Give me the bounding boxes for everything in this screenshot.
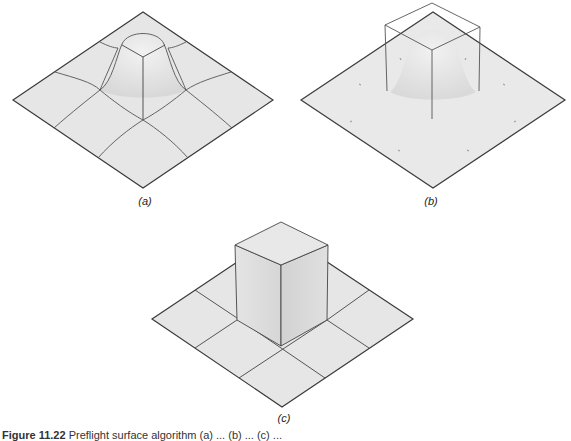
panel-c [152, 222, 413, 407]
panel-label-a: (a) [138, 195, 151, 207]
panel-b [301, 3, 565, 188]
panel-label-b: (b) [424, 195, 437, 207]
solid-box [235, 222, 328, 346]
figure-caption: Figure 11.22 Preflight surface algorithm… [2, 429, 282, 441]
panel-label-c: (c) [278, 412, 291, 424]
figure-number: Figure 11.22 [2, 429, 66, 441]
panel-a [13, 12, 273, 188]
caption-text: Preflight surface algorithm (a) ... (b) … [69, 429, 282, 441]
